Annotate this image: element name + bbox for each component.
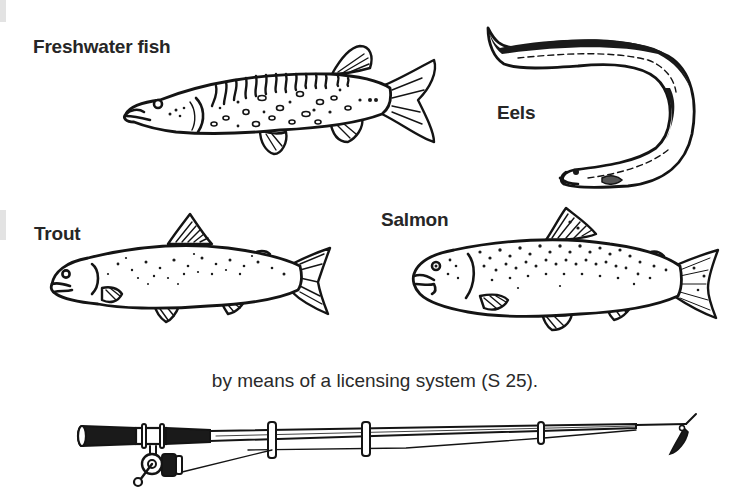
caption-text: by means of a licensing system (S 25). [0,370,738,392]
page-edge-mark [0,210,6,240]
page-edge-mark [0,0,6,22]
fishing-rod-illustration [76,420,716,500]
trout-illustration [48,208,348,328]
pike-illustration [120,42,450,162]
eel-illustration [478,22,718,192]
salmon-illustration [410,204,730,334]
